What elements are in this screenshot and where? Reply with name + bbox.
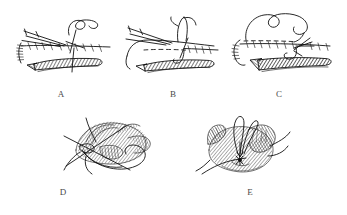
panel-label-d: D (56, 188, 70, 197)
panel-label-b: B (166, 90, 180, 99)
panel-c-illustration (228, 10, 336, 84)
panel-e-illustration (192, 112, 292, 184)
figure-panel-c (228, 10, 336, 84)
panel-d-illustration (62, 112, 170, 182)
panel-label-a: A (54, 90, 68, 99)
figure-panel-a (14, 12, 118, 84)
figure-container: A (0, 0, 347, 215)
figure-panel-b (122, 12, 226, 84)
panel-a-illustration (14, 12, 118, 84)
figure-panel-e (192, 112, 292, 184)
panel-b-illustration (122, 12, 226, 84)
figure-panel-d (62, 112, 170, 182)
panel-label-c: C (272, 90, 286, 99)
panel-label-e: E (243, 188, 257, 197)
